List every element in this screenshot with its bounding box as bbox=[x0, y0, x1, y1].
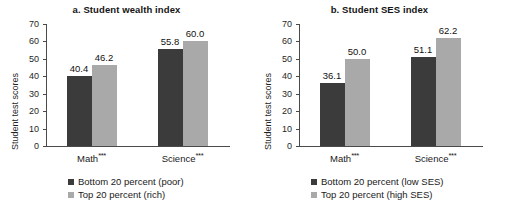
y-tick-label: 40 bbox=[270, 71, 292, 81]
y-tick-mark bbox=[296, 111, 299, 112]
legend-item-top-20: Top 20 percent (rich) bbox=[68, 189, 184, 200]
y-tick-mark bbox=[296, 41, 299, 42]
x-axis-line bbox=[46, 146, 230, 147]
bar bbox=[320, 83, 345, 146]
y-tick-mark bbox=[296, 94, 299, 95]
x-category-label: Science*** bbox=[415, 151, 457, 164]
legend-label-bottom-20: Bottom 20 percent (poor) bbox=[78, 176, 184, 187]
legend-item-bottom-20: Bottom 20 percent (poor) bbox=[68, 176, 184, 187]
legend-swatch-light-square-icon bbox=[311, 192, 317, 198]
y-tick-label: 70 bbox=[17, 19, 39, 29]
y-tick-mark bbox=[43, 41, 46, 42]
x-category-label: Science*** bbox=[162, 151, 204, 164]
bar bbox=[436, 38, 461, 146]
panel-b-title: b. Student SES index bbox=[253, 4, 506, 15]
y-tick-label: 20 bbox=[270, 106, 292, 116]
y-tick-label: 60 bbox=[17, 36, 39, 46]
legend-label-bottom-20: Bottom 20 percent (low SES) bbox=[321, 176, 444, 187]
y-tick-label: 70 bbox=[270, 19, 292, 29]
y-tick-label: 30 bbox=[17, 89, 39, 99]
legend-item-top-20: Top 20 percent (high SES) bbox=[311, 189, 444, 200]
panel-b-student-ses-index: b. Student SES index Student test scores… bbox=[253, 0, 506, 220]
bar-value-label: 36.1 bbox=[323, 70, 342, 81]
y-tick-label: 30 bbox=[270, 89, 292, 99]
significance-stars: *** bbox=[98, 151, 106, 160]
panel-a-plot-area: 01020304050607040.446.2Math***55.860.0Sc… bbox=[46, 24, 228, 146]
legend-label-top-20: Top 20 percent (high SES) bbox=[321, 189, 432, 200]
bar bbox=[345, 59, 370, 146]
bar bbox=[158, 49, 183, 146]
bar-value-label: 51.1 bbox=[414, 44, 433, 55]
panel-a-legend: Bottom 20 percent (poor) Top 20 percent … bbox=[68, 176, 184, 202]
legend-swatch-dark-square-icon bbox=[68, 179, 74, 185]
y-tick-mark bbox=[43, 94, 46, 95]
y-tick-label: 60 bbox=[270, 36, 292, 46]
y-tick-mark bbox=[296, 59, 299, 60]
y-tick-mark bbox=[296, 24, 299, 25]
bar-value-label: 40.4 bbox=[70, 63, 89, 74]
y-tick-label: 10 bbox=[270, 124, 292, 134]
panel-a-student-wealth-index: a. Student wealth index Student test sco… bbox=[0, 0, 253, 220]
y-tick-label: 0 bbox=[17, 141, 39, 151]
panel-b-plot-area: 01020304050607036.150.0Math***51.162.2Sc… bbox=[299, 24, 481, 146]
bar-value-label: 50.0 bbox=[348, 46, 367, 57]
bar-value-label: 55.8 bbox=[161, 36, 180, 47]
x-axis-line bbox=[299, 146, 483, 147]
panel-b-legend: Bottom 20 percent (low SES) Top 20 perce… bbox=[311, 176, 444, 202]
legend-swatch-dark-square-icon bbox=[311, 179, 317, 185]
y-axis-line bbox=[299, 24, 300, 147]
significance-stars: *** bbox=[351, 151, 359, 160]
y-tick-mark bbox=[43, 146, 46, 147]
y-tick-label: 40 bbox=[17, 71, 39, 81]
x-category-label: Math*** bbox=[77, 151, 106, 164]
y-tick-label: 50 bbox=[270, 54, 292, 64]
y-tick-label: 10 bbox=[17, 124, 39, 134]
y-tick-label: 20 bbox=[17, 106, 39, 116]
y-tick-mark bbox=[43, 59, 46, 60]
bar bbox=[411, 57, 436, 146]
y-tick-mark bbox=[43, 76, 46, 77]
significance-stars: *** bbox=[448, 151, 456, 160]
panel-a-title: a. Student wealth index bbox=[0, 4, 253, 15]
y-tick-mark bbox=[43, 24, 46, 25]
bar-value-label: 60.0 bbox=[186, 28, 205, 39]
y-tick-mark bbox=[296, 76, 299, 77]
bar bbox=[92, 65, 117, 146]
bar bbox=[183, 41, 208, 146]
y-tick-label: 50 bbox=[17, 54, 39, 64]
y-tick-mark bbox=[43, 111, 46, 112]
y-tick-mark bbox=[296, 146, 299, 147]
bar-value-label: 46.2 bbox=[95, 52, 114, 63]
y-axis-line bbox=[46, 24, 47, 147]
legend-swatch-light-square-icon bbox=[68, 192, 74, 198]
x-category-label: Math*** bbox=[330, 151, 359, 164]
y-tick-label: 0 bbox=[270, 141, 292, 151]
y-tick-mark bbox=[296, 129, 299, 130]
bar bbox=[67, 76, 92, 146]
bar-value-label: 62.2 bbox=[439, 25, 458, 36]
significance-stars: *** bbox=[195, 151, 203, 160]
y-tick-mark bbox=[43, 129, 46, 130]
legend-label-top-20: Top 20 percent (rich) bbox=[78, 189, 165, 200]
figure-two-panel-bar-charts: a. Student wealth index Student test sco… bbox=[0, 0, 506, 220]
legend-item-bottom-20: Bottom 20 percent (low SES) bbox=[311, 176, 444, 187]
